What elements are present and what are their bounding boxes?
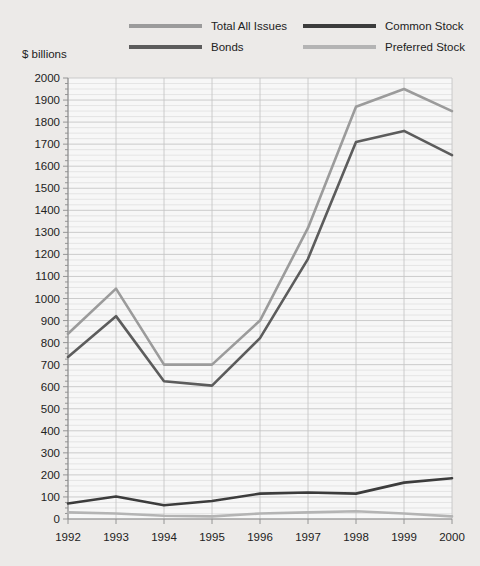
y-axis-ticks: 2000190018001700160015001400130012001100…	[8, 0, 60, 566]
y-tick-label: 1600	[14, 160, 60, 172]
chart-container: Total All Issues Common Stock Bonds Pref…	[0, 0, 480, 566]
y-tick-label: 200	[14, 469, 60, 481]
y-tick-label: 1800	[14, 116, 60, 128]
y-tick-label: 1300	[14, 226, 60, 238]
y-tick-label: 700	[14, 359, 60, 371]
y-tick-label: 1500	[14, 182, 60, 194]
x-tick-label: 1997	[295, 531, 321, 543]
x-tick-label: 1996	[247, 531, 273, 543]
x-tick-label: 1992	[55, 531, 81, 543]
y-tick-label: 0	[14, 513, 60, 525]
y-tick-label: 1400	[14, 204, 60, 216]
y-tick-label: 1200	[14, 248, 60, 260]
y-tick-label: 2000	[14, 72, 60, 84]
x-tick-label: 1994	[151, 531, 177, 543]
y-tick-label: 1700	[14, 138, 60, 150]
y-tick-label: 1000	[14, 293, 60, 305]
x-tick-label: 1998	[343, 531, 369, 543]
y-tick-label: 800	[14, 337, 60, 349]
y-tick-label: 100	[14, 491, 60, 503]
y-tick-label: 400	[14, 425, 60, 437]
y-tick-label: 1900	[14, 94, 60, 106]
plot-area	[0, 0, 480, 566]
x-tick-label: 1993	[103, 531, 129, 543]
y-tick-label: 300	[14, 447, 60, 459]
y-tick-label: 600	[14, 381, 60, 393]
y-tick-label: 900	[14, 315, 60, 327]
y-tick-label: 500	[14, 403, 60, 415]
y-tick-label: 1100	[14, 270, 60, 282]
x-tick-label: 1999	[391, 531, 417, 543]
x-tick-label: 2000	[439, 531, 465, 543]
x-tick-label: 1995	[199, 531, 225, 543]
